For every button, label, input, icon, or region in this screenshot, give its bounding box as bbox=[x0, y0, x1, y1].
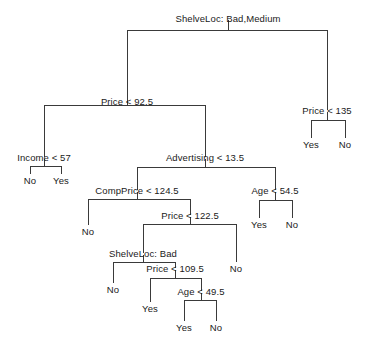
leaf-age495-no: No bbox=[210, 322, 222, 333]
node-root: ShelveLoc: Bad,Medium bbox=[175, 13, 280, 24]
node-shelveloc-bad: ShelveLoc: Bad bbox=[109, 248, 177, 259]
node-age-49-5: Age < 49.5 bbox=[177, 286, 224, 297]
leaf-price135-no: No bbox=[339, 139, 351, 150]
node-price-135: Price < 135 bbox=[302, 105, 351, 116]
leaf-age545-yes: Yes bbox=[251, 219, 267, 230]
node-price-122-5: Price < 122.5 bbox=[161, 210, 219, 221]
leaf-income-no: No bbox=[24, 175, 36, 186]
decision-tree-figure: ShelveLoc: Bad,Medium Price < 92.5 Price… bbox=[0, 0, 373, 338]
leaf-age495-yes: Yes bbox=[176, 322, 192, 333]
node-compprice-124-5: CompPrice < 124.5 bbox=[95, 185, 178, 196]
node-price-109-5: Price < 109.5 bbox=[146, 263, 204, 274]
leaf-shelvelocbad-no: No bbox=[107, 284, 119, 295]
leaf-compprice-no: No bbox=[82, 226, 94, 237]
leaf-age545-no: No bbox=[286, 219, 298, 230]
node-price-92-5: Price < 92.5 bbox=[101, 96, 153, 107]
leaf-income-yes: Yes bbox=[53, 175, 69, 186]
node-age-54-5: Age < 54.5 bbox=[251, 185, 298, 196]
leaf-price1095-yes: Yes bbox=[142, 303, 158, 314]
node-income-57: Income < 57 bbox=[17, 152, 71, 163]
leaf-price135-yes: Yes bbox=[303, 139, 319, 150]
leaf-price1225-no: No bbox=[230, 263, 242, 274]
node-advertising-13-5: Advertising < 13.5 bbox=[166, 152, 244, 163]
